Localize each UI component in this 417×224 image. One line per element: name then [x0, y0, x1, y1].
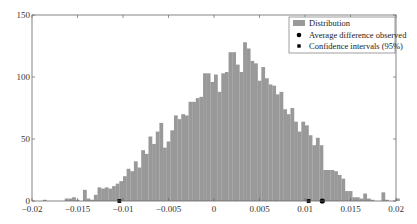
histogram-bar — [134, 161, 138, 201]
x-tick-label: 0.01 — [297, 204, 313, 214]
histogram-bar — [112, 186, 116, 201]
x-tick-label: −0.015 — [65, 204, 91, 214]
histogram-bar — [381, 192, 385, 201]
x-tick-label: 0 — [212, 204, 217, 214]
histogram-bar — [247, 48, 251, 201]
histogram-bar — [72, 197, 76, 201]
x-tick-label: 0.02 — [388, 204, 404, 214]
histogram-bar — [272, 86, 276, 201]
histogram-bar — [305, 125, 309, 201]
histogram-bar — [203, 73, 207, 201]
legend-square-icon — [297, 44, 300, 47]
histogram-bar — [116, 184, 120, 201]
histogram-bar — [178, 119, 182, 201]
histogram-bar — [225, 72, 229, 201]
histogram-bar — [338, 175, 342, 201]
histogram-bar — [294, 122, 298, 201]
histogram-bar — [261, 67, 265, 201]
histogram-bar — [156, 132, 160, 201]
histogram-bar — [167, 141, 171, 201]
histogram-bar — [301, 122, 305, 201]
legend-circle-icon — [297, 33, 302, 38]
histogram-bar — [170, 130, 174, 201]
histogram-bar — [83, 190, 87, 201]
histogram-bar — [316, 138, 320, 201]
histogram-bar — [138, 168, 142, 201]
histogram-bar — [174, 115, 178, 201]
x-tick-label: 0.015 — [340, 204, 361, 214]
histogram-bar — [298, 132, 302, 201]
y-tick-label: 100 — [17, 72, 31, 82]
histogram-bar — [243, 42, 247, 201]
histogram-bar — [280, 92, 284, 201]
histogram-bar — [141, 150, 145, 201]
histogram-bar — [145, 154, 149, 201]
histogram-bar — [276, 94, 280, 201]
histogram-bar — [269, 84, 273, 201]
x-tick-label: −0.005 — [156, 204, 182, 214]
histogram-bar — [287, 114, 291, 201]
histogram-bar — [189, 102, 193, 201]
y-tick-label: 150 — [17, 10, 31, 20]
histogram-bar — [283, 109, 287, 201]
histogram-bar — [239, 72, 243, 201]
histogram-bar — [199, 97, 203, 201]
histogram-bar — [330, 170, 334, 201]
histogram-bar — [207, 73, 211, 201]
histogram-bar — [163, 148, 167, 201]
x-tick-label: −0.01 — [113, 204, 134, 214]
histogram-bar — [94, 195, 98, 201]
histogram-bar — [221, 73, 225, 201]
histogram-bar — [327, 170, 331, 201]
legend-label-confidence: Confidence intervals (95%) — [309, 41, 403, 51]
y-tick-label: 0 — [26, 196, 31, 206]
histogram-bar — [218, 92, 222, 201]
histogram-bar — [320, 145, 324, 201]
histogram-bar — [119, 181, 123, 201]
histogram-bar — [181, 114, 185, 201]
histogram-bar — [236, 65, 240, 201]
histogram-bar — [210, 82, 214, 201]
histogram-bar — [159, 123, 163, 201]
histogram-bar — [196, 98, 200, 201]
y-tick-label: 50 — [21, 134, 31, 144]
histogram-bar — [309, 135, 313, 201]
histogram-bar — [152, 144, 156, 201]
histogram-bar — [108, 189, 112, 201]
histogram-bar — [229, 52, 233, 201]
histogram-bar — [148, 137, 152, 201]
histogram-bar — [265, 78, 269, 201]
legend: Distribution Average difference observed… — [289, 17, 407, 53]
histogram-bar — [105, 187, 109, 201]
histogram-bars — [43, 42, 400, 201]
histogram-bar — [185, 115, 189, 201]
legend-label-distribution: Distribution — [309, 18, 351, 28]
histogram-bar — [363, 194, 367, 201]
histogram-bar — [130, 171, 134, 201]
histogram-bar — [341, 179, 345, 201]
histogram-bar — [352, 197, 356, 201]
histogram-bar — [250, 61, 254, 201]
histogram-bar — [258, 81, 262, 201]
histogram-chart: −0.02−0.015−0.01−0.00500.0050.010.0150.0… — [0, 0, 417, 224]
histogram-bar — [334, 171, 338, 201]
histogram-bar — [396, 199, 400, 201]
x-tick-label: 0.005 — [249, 204, 270, 214]
histogram-bar — [123, 176, 127, 201]
histogram-bar — [323, 170, 327, 201]
histogram-bar — [127, 169, 131, 201]
histogram-bar — [254, 63, 258, 201]
histogram-bar — [356, 197, 360, 201]
histogram-bar — [312, 145, 316, 201]
histogram-bar — [290, 108, 294, 201]
histogram-bar — [101, 189, 105, 201]
histogram-bar — [345, 191, 349, 201]
histogram-bar — [232, 52, 236, 201]
histogram-bar — [98, 187, 102, 201]
histogram-bar — [192, 102, 196, 201]
legend-swatch-distribution — [293, 20, 305, 26]
histogram-bar — [214, 75, 218, 201]
legend-label-average: Average difference observed — [309, 30, 407, 40]
